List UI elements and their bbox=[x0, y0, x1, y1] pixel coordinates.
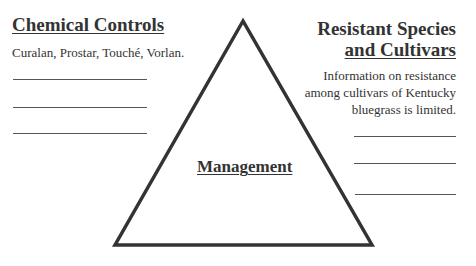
blank-line-left-3 bbox=[13, 133, 147, 134]
resistant-species-title: Resistant Species and Cultivars bbox=[317, 18, 456, 60]
management-label: Management bbox=[197, 156, 292, 177]
resistant-species-title-line1: Resistant Species bbox=[317, 18, 456, 39]
blank-line-right-1 bbox=[354, 136, 456, 137]
blank-line-right-3 bbox=[355, 194, 456, 195]
blank-line-left-1 bbox=[13, 79, 147, 80]
chemical-controls-title: Chemical Controls bbox=[12, 14, 164, 35]
resistant-text-line2: among cultivars of Kentucky bbox=[305, 84, 456, 101]
blank-line-left-2 bbox=[13, 107, 147, 108]
resistant-text-line1: Information on resistance bbox=[305, 67, 456, 84]
resistant-text-line3: bluegrass is limited. bbox=[305, 101, 456, 118]
resistant-species-title-line2: and Cultivars bbox=[317, 39, 456, 60]
resistant-species-text: Information on resistance among cultivar… bbox=[305, 67, 456, 118]
chemical-controls-text: Curalan, Prostar, Touché, Vorlan. bbox=[12, 44, 184, 61]
blank-line-right-2 bbox=[354, 163, 456, 164]
